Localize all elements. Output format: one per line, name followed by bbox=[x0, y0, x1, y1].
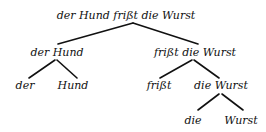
edge-obj-det bbox=[198, 94, 219, 110]
edge-root-np bbox=[58, 23, 133, 44]
node-vp: frißt die Wurst bbox=[153, 46, 237, 59]
edge-obj-n bbox=[222, 94, 243, 110]
node-np-n: Hund bbox=[57, 79, 89, 92]
edge-np-det bbox=[29, 60, 55, 78]
node-v: frißt bbox=[146, 79, 172, 92]
edge-np-n bbox=[57, 60, 77, 78]
node-root: der Hund frißt die Wurst bbox=[57, 9, 196, 22]
node-np-det: der bbox=[16, 79, 36, 92]
node-obj: die Wurst bbox=[194, 79, 248, 92]
edge-vp-v bbox=[160, 60, 192, 78]
edge-root-vp bbox=[133, 23, 198, 44]
edge-vp-obj bbox=[194, 60, 219, 78]
parse-tree: der Hund frißt die Wurst der Hund frißt … bbox=[0, 0, 266, 132]
node-np: der Hund bbox=[30, 46, 83, 59]
node-obj-n: Wurst bbox=[224, 114, 258, 127]
node-obj-det: die bbox=[184, 114, 202, 127]
